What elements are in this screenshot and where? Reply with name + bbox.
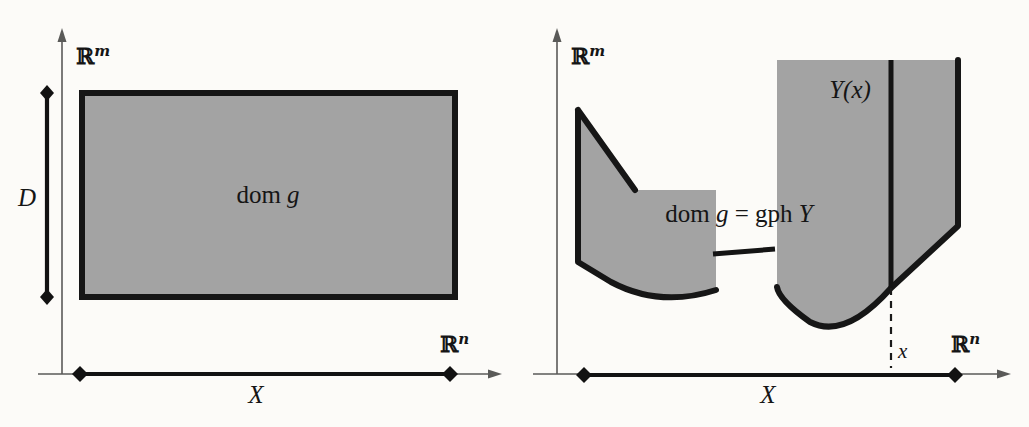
y-axis-label: ℝm bbox=[76, 42, 110, 69]
y-axis-arrowhead bbox=[553, 28, 562, 42]
dom-g-label: dom g bbox=[236, 181, 299, 208]
dom-g-gph-Y-label: dom g = gph Y bbox=[665, 200, 816, 227]
x-segment-label: X bbox=[759, 381, 777, 408]
x-axis-label: ℝn bbox=[951, 330, 980, 357]
x-axis-arrowhead bbox=[997, 370, 1011, 379]
d-measure bbox=[40, 85, 54, 305]
product-domain-panel: ℝm ℝn D X dom g bbox=[0, 0, 515, 427]
Y-of-x-label: Y(x) bbox=[829, 76, 871, 104]
x-axis-label: ℝn bbox=[440, 330, 469, 357]
d-measure-cap-bottom bbox=[40, 289, 54, 305]
d-label: D bbox=[17, 184, 36, 211]
x-segment-label: X bbox=[247, 381, 265, 408]
connector-strip bbox=[713, 249, 775, 254]
x-measure-cap-left bbox=[576, 367, 592, 383]
y-axis-arrowhead bbox=[58, 28, 67, 42]
d-measure-cap-top bbox=[40, 85, 54, 101]
x-measure-cap-left bbox=[72, 366, 88, 382]
y-axis-label: ℝm bbox=[571, 42, 605, 69]
graph-domain-panel: ℝm ℝn X x Y(x) dom g = gph Y bbox=[515, 0, 1029, 427]
x-measure-cap-right bbox=[442, 366, 458, 382]
x-measure-cap-right bbox=[947, 367, 963, 383]
figure-root: ℝm ℝn D X dom g bbox=[0, 0, 1029, 427]
x-point-label: x bbox=[897, 339, 908, 363]
x-measure bbox=[72, 366, 458, 382]
x-axis-arrowhead bbox=[488, 370, 502, 379]
